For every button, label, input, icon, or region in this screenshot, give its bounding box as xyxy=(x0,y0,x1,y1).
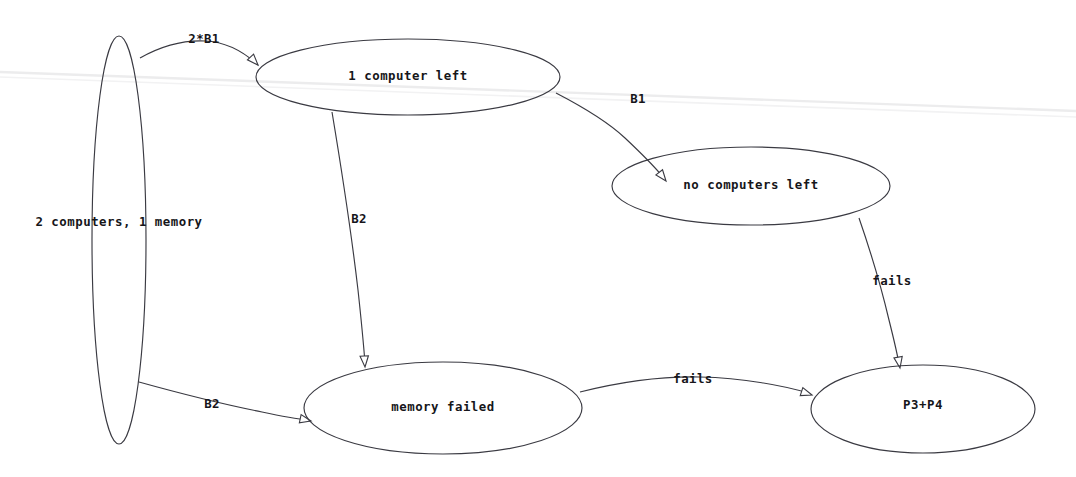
nodes-group: 2 computers, 1 memory 1 computer left no… xyxy=(35,36,1035,454)
edge-path xyxy=(332,112,365,363)
scan-line-1-path xyxy=(0,72,1076,111)
node-label-p3-p4: P3+P4 xyxy=(903,397,943,412)
edge-memory-failed-to-p3p4[interactable]: fails xyxy=(580,371,813,399)
edge-path xyxy=(556,93,663,177)
node-start[interactable]: 2 computers, 1 memory xyxy=(35,36,202,444)
state-transition-diagram: 2*B1 B2 B1 B2 fails xyxy=(0,0,1076,477)
edge-start-to-memory-failed[interactable]: B2 xyxy=(139,382,312,425)
node-label-memory-failed: memory failed xyxy=(391,399,494,414)
node-no-computers-left[interactable]: no computers left xyxy=(612,147,890,225)
edge-one-computer-to-memory-failed[interactable]: B2 xyxy=(332,112,369,367)
edge-path xyxy=(859,218,899,364)
edge-label-2b1: 2*B1 xyxy=(188,31,219,46)
edge-label-b2-start: B2 xyxy=(204,396,220,411)
edge-start-to-one-computer[interactable]: 2*B1 xyxy=(140,31,261,68)
node-p3-p4[interactable]: P3+P4 xyxy=(811,365,1035,453)
edge-label-b1: B1 xyxy=(630,91,646,106)
node-memory-failed[interactable]: memory failed xyxy=(304,362,582,454)
edge-label-b2-one-computer: B2 xyxy=(351,211,367,226)
arrowhead-icon xyxy=(247,54,261,68)
node-one-computer-left[interactable]: 1 computer left xyxy=(256,39,560,115)
arrowhead-icon xyxy=(360,356,369,368)
node-label-one-computer-left: 1 computer left xyxy=(348,68,467,83)
diagram-canvas: 2*B1 B2 B1 B2 fails xyxy=(0,0,1076,477)
edge-label-fails-memory-failed: fails xyxy=(673,371,712,386)
node-label-start: 2 computers, 1 memory xyxy=(35,214,202,229)
scan-artifact-group xyxy=(0,72,1076,117)
arrowhead-icon xyxy=(800,388,813,399)
edge-label-fails-no-computers: fails xyxy=(872,273,911,288)
edge-no-computers-to-p3p4[interactable]: fails xyxy=(859,218,912,369)
edge-one-computer-to-no-computers[interactable]: B1 xyxy=(556,91,669,184)
node-label-no-computers-left: no computers left xyxy=(683,177,818,192)
edges-group: 2*B1 B2 B1 B2 fails xyxy=(139,31,912,426)
arrowhead-icon xyxy=(894,356,904,368)
node-ellipse xyxy=(92,36,146,444)
edge-path xyxy=(139,382,309,420)
